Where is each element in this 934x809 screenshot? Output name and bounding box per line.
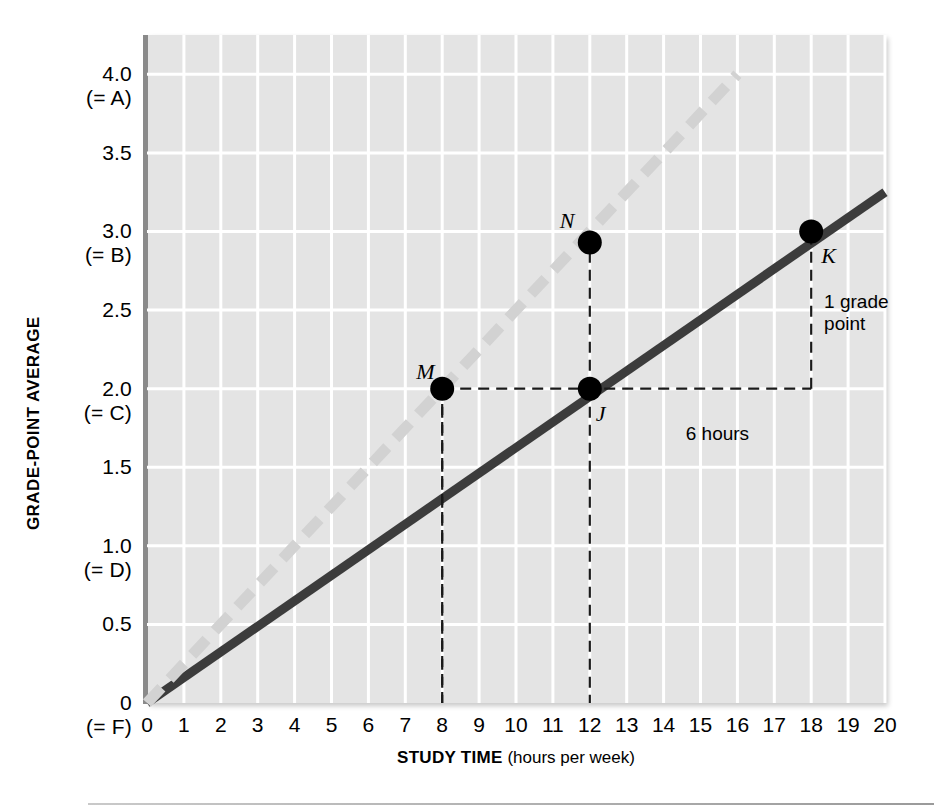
y-tick-grade: (= F) (86, 715, 132, 739)
x-tick-label: 15 (681, 713, 721, 737)
chart-figure: 4.0(= A)3.53.0(= B)2.52.0(= C)1.51.0(= D… (0, 0, 934, 809)
x-tick-label: 16 (717, 713, 757, 737)
x-tick-label: 17 (754, 713, 794, 737)
y-tick-value: 0.5 (102, 612, 132, 636)
data-point-J[interactable] (578, 377, 602, 401)
y-tick-label: 0.5 (102, 612, 132, 636)
x-tick-label: 10 (496, 713, 536, 737)
y-tick-value: 2.0 (84, 377, 132, 401)
y-tick-label: 2.5 (102, 298, 132, 322)
x-tick-label: 0 (127, 713, 167, 737)
x-tick-label: 11 (533, 713, 573, 737)
y-tick-value: 0 (86, 691, 132, 715)
y-tick-grade: (= A) (86, 86, 132, 110)
x-tick-label: 6 (348, 713, 388, 737)
y-tick-value: 3.5 (102, 141, 132, 165)
x-tick-label: 3 (238, 713, 278, 737)
y-tick-label: 2.0(= C) (84, 377, 132, 425)
x-tick-label: 19 (828, 713, 868, 737)
point-label-K: K (821, 243, 836, 269)
y-tick-label: 4.0(= A) (86, 62, 132, 110)
x-tick-label: 12 (570, 713, 610, 737)
x-tick-label: 9 (459, 713, 499, 737)
annotation-one-grade-point: 1 grade point (824, 291, 888, 335)
x-tick-label: 4 (275, 713, 315, 737)
x-tick-label: 13 (607, 713, 647, 737)
y-tick-value: 4.0 (86, 62, 132, 86)
x-tick-label: 1 (164, 713, 204, 737)
data-point-N[interactable] (578, 230, 602, 254)
annotation-six-hours: 6 hours (686, 423, 749, 445)
y-tick-value: 2.5 (102, 298, 132, 322)
y-tick-label: 3.0(= B) (85, 219, 132, 267)
y-tick-grade: (= C) (84, 401, 132, 425)
x-tick-label: 18 (791, 713, 831, 737)
data-point-K[interactable] (799, 219, 823, 243)
x-axis-title-bold: STUDY TIME (397, 748, 503, 767)
y-tick-label: 1.0(= D) (84, 534, 132, 582)
plot-canvas (147, 35, 885, 703)
x-axis-title-rest: (hours per week) (503, 748, 635, 767)
x-tick-label: 7 (385, 713, 425, 737)
point-label-J: J (596, 401, 606, 427)
x-tick-label: 5 (312, 713, 352, 737)
y-tick-label: 0(= F) (86, 691, 132, 739)
plot-area (147, 35, 885, 703)
y-axis-tick-labels: 4.0(= A)3.53.0(= B)2.52.0(= C)1.51.0(= D… (0, 0, 132, 809)
y-tick-grade: (= D) (84, 558, 132, 582)
x-tick-label: 8 (422, 713, 462, 737)
x-tick-label: 2 (201, 713, 241, 737)
y-axis-title: GRADE-POINT AVERAGE (24, 316, 44, 530)
x-axis-title: STUDY TIME (hours per week) (147, 748, 885, 768)
y-tick-label: 1.5 (102, 455, 132, 479)
footer-divider (88, 803, 934, 805)
y-tick-value: 1.5 (102, 455, 132, 479)
point-label-N: N (560, 208, 575, 234)
y-tick-grade: (= B) (85, 243, 132, 267)
x-tick-label: 20 (865, 713, 905, 737)
y-tick-label: 3.5 (102, 141, 132, 165)
x-tick-label: 14 (644, 713, 684, 737)
y-tick-value: 1.0 (84, 534, 132, 558)
y-tick-value: 3.0 (85, 219, 132, 243)
point-label-M: M (416, 359, 434, 385)
